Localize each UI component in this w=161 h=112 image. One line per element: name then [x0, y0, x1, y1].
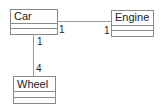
class-wheel-name: Wheel	[14, 77, 55, 92]
class-engine[interactable]: Engine	[111, 10, 154, 37]
class-engine-name: Engine	[112, 11, 153, 26]
multiplicity-car-wheel-wheel-end: 4	[36, 64, 42, 74]
multiplicity-car-wheel-car-end: 1	[37, 37, 43, 47]
association-car-wheel	[33, 34, 34, 76]
class-car-name: Car	[11, 10, 57, 24]
class-wheel[interactable]: Wheel	[13, 76, 56, 104]
multiplicity-car-engine-engine-end: 1	[104, 26, 110, 36]
multiplicity-car-engine-car-end: 1	[59, 25, 65, 35]
class-wheel-operations	[14, 98, 55, 103]
class-car-operations	[11, 29, 57, 34]
class-engine-operations	[112, 31, 153, 36]
association-car-engine	[57, 21, 111, 22]
class-car[interactable]: Car	[10, 9, 58, 35]
